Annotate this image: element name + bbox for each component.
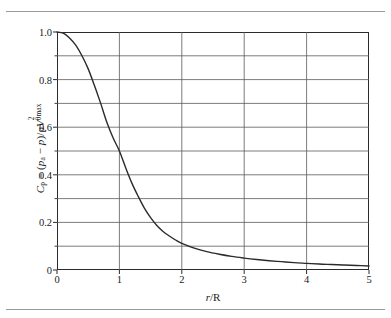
y-axis-symbol: C xyxy=(34,186,46,193)
y-axis-velocity: V xyxy=(34,120,46,127)
y-axis-minus: − xyxy=(34,145,46,157)
chart-plot-area xyxy=(57,32,369,270)
x-axis-tick-label: 3 xyxy=(242,274,247,285)
y-axis-tick-label: 0 xyxy=(47,265,52,276)
x-axis-tick-label: 1 xyxy=(117,274,122,285)
y-axis-close-div: )/ρ xyxy=(34,127,46,140)
y-axis-velocity-subscript: θmax xyxy=(35,104,42,121)
y-axis-title: Cp = (pa − p)/ρV2θmax xyxy=(31,29,48,267)
page-rule-bottom xyxy=(6,309,385,310)
page-rule-top xyxy=(6,11,385,12)
y-axis-symbol-subscript: p xyxy=(38,182,47,186)
y-axis-equals: = ( xyxy=(34,166,46,182)
x-axis-tick-label: 5 xyxy=(366,274,371,285)
x-axis-title: r/R xyxy=(57,291,369,303)
x-axis-tick-label: 0 xyxy=(54,274,59,285)
y-axis-pa-subscript: a xyxy=(38,157,47,160)
x-axis-title-denominator: R xyxy=(213,291,220,303)
y-axis-p: p xyxy=(34,140,46,146)
y-axis-pa: p xyxy=(34,161,46,167)
x-axis-tick-label: 4 xyxy=(304,274,309,285)
figure-root: 00.20.40.60.81.0 012345 r/R Cp = (pa − p… xyxy=(0,0,391,318)
axis-tick-marks xyxy=(57,32,369,270)
x-axis-tick-label: 2 xyxy=(179,274,184,285)
x-axis-tick-labels: 012345 xyxy=(57,274,369,288)
y-axis-velocity-indices: 2θmax xyxy=(30,104,44,121)
